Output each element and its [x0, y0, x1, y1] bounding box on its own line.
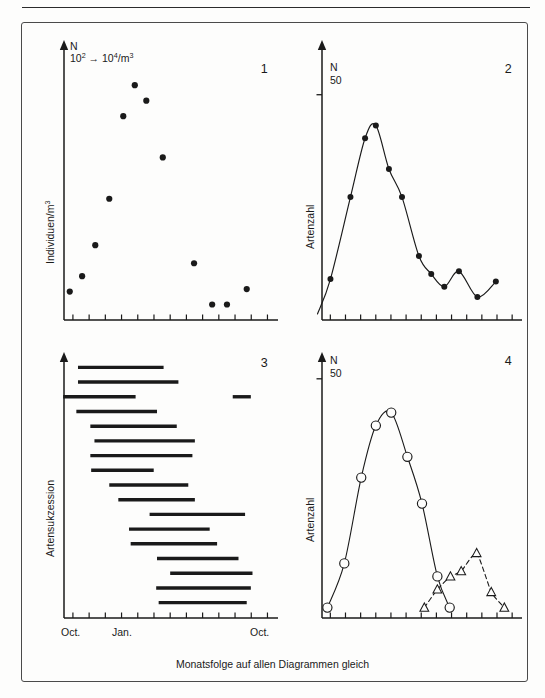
data-point-filled-circle [456, 268, 462, 274]
data-point-filled-circle [386, 166, 392, 172]
data-point-filled-circle [244, 286, 250, 292]
data-point-filled-circle [347, 194, 353, 200]
data-point-filled-circle [160, 154, 166, 160]
y-axis-arrow-icon [318, 352, 326, 362]
figure-caption: Monatsfolge auf allen Diagrammen gleich [0, 658, 545, 670]
series-curve-artenzahl [317, 124, 495, 314]
data-point-open-circle [417, 499, 426, 508]
panel-4-plot [290, 352, 528, 652]
y-axis-arrow-icon [60, 352, 68, 362]
panel-3-plot [34, 352, 284, 652]
panel-2: 2 N 50 Artenzahl [290, 34, 528, 344]
data-point-filled-circle [191, 260, 197, 266]
panel-1-plot [34, 34, 284, 344]
panel-1: 1 N 102 → 104/m3 Individuen/m3 [34, 34, 284, 344]
data-point-open-circle [357, 473, 366, 482]
data-point-filled-circle [441, 284, 447, 290]
data-point-filled-circle [373, 122, 379, 128]
data-point-filled-circle [416, 253, 422, 259]
data-point-filled-circle [399, 194, 405, 200]
data-point-filled-circle [132, 82, 138, 88]
panel-3-xtick-oct-end: Oct. [250, 626, 269, 638]
data-point-open-triangle [420, 603, 429, 611]
y-axis-arrow-icon [318, 40, 326, 50]
data-point-filled-circle [92, 242, 98, 248]
data-point-open-triangle [487, 587, 496, 595]
data-point-filled-circle [143, 98, 149, 104]
data-point-open-circle [445, 603, 454, 612]
panel-3-xtick-oct-start: Oct. [61, 626, 80, 638]
data-point-open-circle [403, 452, 412, 461]
data-point-filled-circle [209, 301, 215, 307]
figure-page: 1 N 102 → 104/m3 Individuen/m3 2 N 50 Ar… [0, 0, 545, 698]
top-rule-divider [22, 7, 530, 8]
data-point-open-triangle [472, 548, 481, 556]
data-point-open-triangle [446, 572, 455, 580]
data-point-filled-circle [224, 301, 230, 307]
data-point-filled-circle [474, 294, 480, 300]
data-point-open-circle [371, 421, 380, 430]
data-point-filled-circle [67, 289, 73, 295]
panel-3: 3 Artensukzession Oct. Jan. Oct. [34, 352, 284, 652]
data-point-open-circle [387, 408, 396, 417]
data-point-filled-circle [120, 113, 126, 119]
data-point-open-circle [433, 572, 442, 581]
data-point-open-circle [323, 603, 332, 612]
data-point-filled-circle [493, 279, 499, 285]
data-point-filled-circle [327, 276, 333, 282]
y-axis-arrow-icon [60, 40, 68, 50]
data-point-filled-circle [362, 135, 368, 141]
data-point-filled-circle [106, 196, 112, 202]
data-point-filled-circle [79, 273, 85, 279]
data-point-open-circle [340, 559, 349, 568]
panel-2-plot [290, 34, 528, 344]
data-point-filled-circle [428, 271, 434, 277]
series-curve-solid [327, 411, 449, 608]
panel-3-xtick-jan: Jan. [112, 626, 132, 638]
panel-4: 4 N 50 Artenzahl [290, 352, 528, 652]
